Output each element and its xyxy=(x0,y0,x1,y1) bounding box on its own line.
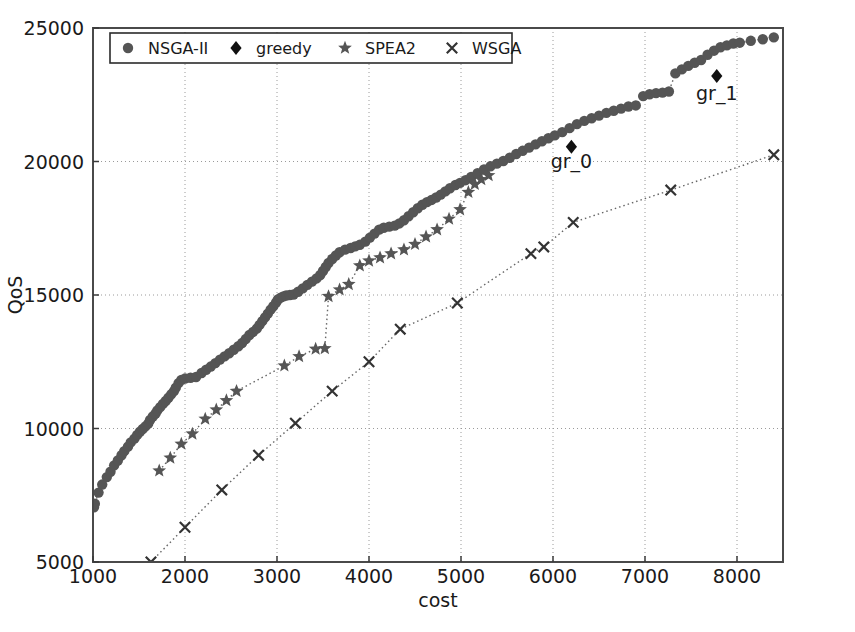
legend-label: NSGA-II xyxy=(148,39,208,58)
x-tick-label: 6000 xyxy=(529,565,577,587)
y-axis-title: QoS xyxy=(4,276,26,315)
data-point-circle xyxy=(631,100,641,110)
y-tick-label: 10000 xyxy=(24,418,84,440)
data-point-circle xyxy=(735,37,745,47)
x-axis-title: cost xyxy=(418,589,457,611)
data-point-circle xyxy=(664,86,674,96)
chart-figure: gr_0gr_1 1000200030004000500060007000800… xyxy=(0,0,855,632)
legend[interactable]: NSGA-IIgreedySPEA2WSGA xyxy=(110,33,521,63)
y-tick-label: 25000 xyxy=(24,17,84,39)
legend-label: SPEA2 xyxy=(365,39,416,58)
x-tick-label: 8000 xyxy=(713,565,761,587)
x-tick-label: 4000 xyxy=(345,565,393,587)
annotation-gr_0: gr_0 xyxy=(551,150,592,173)
x-tick-label: 5000 xyxy=(437,565,485,587)
y-tick-label: 15000 xyxy=(24,284,84,306)
y-tick-label: 20000 xyxy=(24,151,84,173)
y-tick-label: 5000 xyxy=(36,551,84,573)
data-point-circle xyxy=(769,32,779,42)
data-point-circle xyxy=(758,34,768,44)
legend-label: WSGA xyxy=(472,39,521,58)
legend-label: greedy xyxy=(256,39,312,58)
x-tick-label: 3000 xyxy=(253,565,301,587)
x-tick-label: 7000 xyxy=(621,565,669,587)
data-point-circle xyxy=(746,36,756,46)
scatter-plot-svg: gr_0gr_1 1000200030004000500060007000800… xyxy=(0,0,855,632)
annotation-gr_1: gr_1 xyxy=(696,82,737,105)
data-point-circle xyxy=(123,43,133,53)
x-tick-label: 2000 xyxy=(161,565,209,587)
